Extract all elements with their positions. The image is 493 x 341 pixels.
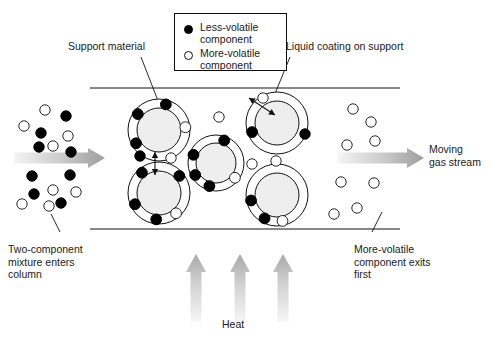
support-core-5 (255, 173, 299, 217)
support-particle-5 (246, 164, 308, 226)
more-volatile-particle-outlet-7 (329, 209, 339, 219)
less-volatile-particle-inlet-11 (29, 189, 39, 199)
heat-arrow-1 (186, 254, 206, 322)
more-volatile-particle-on-support-1-3 (180, 122, 191, 133)
support-particle-2 (128, 162, 190, 225)
less-volatile-particle-on-support-3-0 (219, 135, 230, 146)
less-volatile-particle-inlet-15 (56, 198, 66, 208)
less-volatile-particle-on-support-3-3 (204, 181, 215, 192)
legend-filled-circle-icon (184, 25, 193, 34)
legend-open-circle-icon (184, 51, 193, 60)
more-volatile-particle-inlet-5 (63, 131, 73, 141)
more-volatile-particle-column-2 (214, 112, 224, 122)
more-volatile-particle-inlet-0 (40, 105, 50, 115)
less-volatile-particle-on-support-5-0 (246, 195, 257, 206)
less-volatile-particle-on-support-1-1 (132, 109, 143, 120)
more-volatile-particle-outlet-3 (370, 136, 380, 146)
more-volatile-particle-outlet-1 (366, 117, 376, 127)
less-volatile-particle-inlet-7 (66, 147, 76, 157)
inlet-leader (51, 214, 60, 232)
more-volatile-particle-column-6 (258, 93, 268, 103)
legend-label-less-volatile: Less-volatile component (200, 21, 258, 46)
less-volatile-particle-on-support-3-1 (188, 149, 199, 160)
less-volatile-particle-on-support-2-1 (174, 171, 185, 182)
heat-arrows (186, 254, 293, 322)
support-particle-4 (246, 92, 308, 154)
less-volatile-particle-column-5 (300, 129, 310, 139)
more-volatile-particle-on-support-5-2 (277, 216, 288, 227)
more-volatile-particle-inlet-13 (17, 199, 27, 209)
more-volatile-particle-outlet-4 (336, 177, 346, 187)
support-particle-3 (188, 135, 244, 191)
outlet-flow (338, 148, 424, 168)
less-volatile-particle-on-support-2-0 (137, 167, 148, 178)
more-volatile-particle-column-1 (166, 153, 176, 163)
support-core-4 (255, 101, 299, 145)
more-volatile-particle-inlet-10 (48, 185, 58, 195)
more-volatile-particle-outlet-2 (342, 140, 352, 150)
legend-box: Less-volatile component More-volatile co… (174, 13, 287, 71)
less-volatile-particle-inlet-3 (36, 128, 46, 138)
more-volatile-particle-inlet-12 (71, 187, 81, 197)
more-volatile-particle-inlet-2 (19, 121, 29, 131)
less-volatile-particle-on-support-3-2 (190, 170, 201, 181)
label-support-material: Support material (68, 40, 145, 53)
inlet-flow (14, 148, 105, 168)
less-volatile-particle-on-support-2-3 (151, 214, 162, 225)
label-inlet-mixture: Two-component mixture enters column (8, 243, 83, 281)
more-volatile-particle-inlet-4 (48, 141, 58, 151)
less-volatile-particle-column-0 (135, 151, 145, 161)
less-volatile-particle-inlet-6 (34, 142, 44, 152)
more-volatile-particle-column-3 (247, 159, 257, 169)
less-volatile-particle-inlet-9 (65, 170, 75, 180)
less-volatile-particle-on-support-4-0 (247, 127, 258, 138)
heat-arrow-3 (273, 254, 293, 322)
more-volatile-particle-inlet-14 (44, 201, 54, 211)
heat-arrow-2 (230, 254, 250, 322)
less-volatile-particle-inlet-1 (61, 111, 71, 121)
less-volatile-particle-on-support-5-1 (259, 213, 270, 224)
legend-label-more-volatile: More-volatile component (200, 47, 260, 72)
label-moving-gas-stream: Moving gas stream (429, 143, 481, 168)
more-volatile-particle-column-4 (271, 156, 281, 166)
more-volatile-particle-on-support-3-4 (230, 172, 241, 183)
less-volatile-particle-on-support-1-2 (131, 138, 142, 149)
more-volatile-particle-outlet-5 (369, 178, 379, 188)
more-volatile-particle-on-support-2-4 (171, 208, 182, 219)
more-volatile-particle-outlet-0 (348, 104, 358, 114)
less-volatile-particle-on-support-2-2 (130, 199, 141, 210)
label-heat: Heat (222, 318, 244, 331)
figure-canvas: Less-volatile component More-volatile co… (0, 0, 493, 341)
less-volatile-particle-on-support-1-0 (160, 99, 171, 110)
label-outlet-component: More-volatile component exits first (354, 243, 430, 281)
label-liquid-coating: Liquid coating on support (286, 40, 403, 53)
more-volatile-particle-outlet-6 (352, 203, 362, 213)
less-volatile-particle-inlet-8 (27, 171, 37, 181)
